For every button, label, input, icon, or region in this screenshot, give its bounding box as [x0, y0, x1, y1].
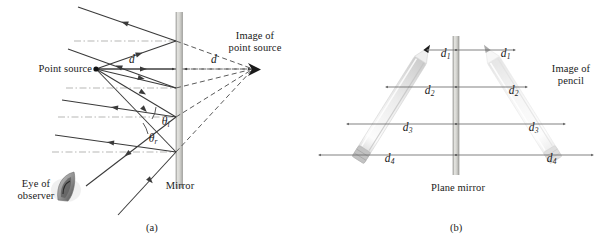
label-distance-image: d — [204, 54, 224, 66]
label-d1-left: d1 — [423, 36, 447, 73]
label-image-of-pencil: Image of pencil — [537, 63, 605, 86]
label-d2-right: d2 — [491, 73, 515, 110]
d1-left-subscript: 1 — [447, 51, 451, 60]
label-point-source: Point source — [0, 63, 92, 75]
d2-right-subscript: 2 — [515, 88, 519, 97]
panel-b-diagram — [305, 0, 609, 245]
mirror-surface — [176, 12, 183, 188]
label-d2-left: d2 — [407, 73, 431, 110]
label-angle-reflection: θr — [131, 121, 158, 158]
panel-a-sublabel: (a) — [146, 222, 158, 233]
d3-right-subscript: 3 — [535, 125, 539, 134]
d1-right-subscript: 1 — [507, 51, 511, 60]
reflected-ray-arrows — [107, 19, 155, 185]
label-mirror: Mirror — [150, 180, 210, 192]
label-eye-of-observer: Eye of observer — [2, 178, 70, 201]
label-d4-left: d4 — [367, 141, 391, 178]
angle-incidence-subscript: i — [168, 119, 170, 128]
label-d4-right: d4 — [529, 141, 553, 178]
point-source-dot — [93, 66, 98, 71]
label-image-of-point-source: Image of point source — [205, 30, 305, 53]
panel-b-sublabel: (b) — [450, 222, 462, 233]
d4-left-subscript: 4 — [391, 156, 395, 165]
label-d1-right: d1 — [483, 36, 507, 73]
label-plane-mirror: Plane mirror — [418, 182, 498, 194]
label-distance-object: d — [122, 54, 142, 66]
d4-right-subscript: 4 — [553, 156, 557, 165]
angle-reflection-subscript: r — [155, 136, 158, 145]
panel-b-pencil-mirror: d1 d1 d2 d2 d3 d3 d4 d4 Image of pencil … — [305, 0, 609, 245]
d3-left-subscript: 3 — [409, 125, 413, 134]
figure-root: Point source Image of point source Eye o… — [0, 0, 609, 245]
panel-a-mirror-reflection: Point source Image of point source Eye o… — [0, 0, 305, 245]
d2-left-subscript: 2 — [431, 88, 435, 97]
